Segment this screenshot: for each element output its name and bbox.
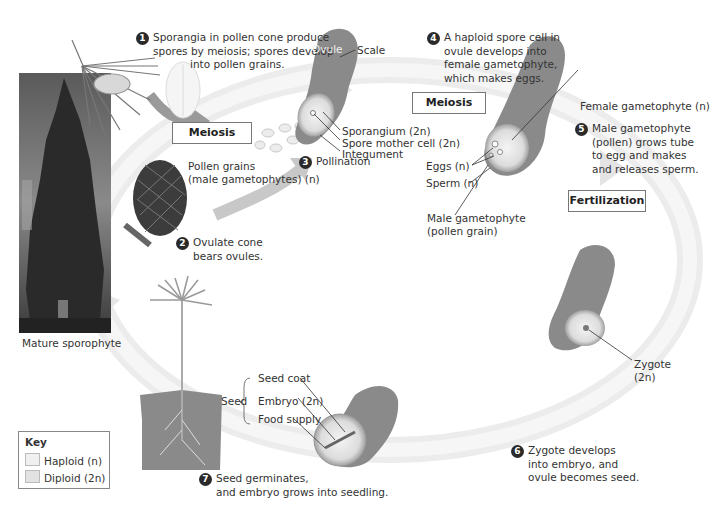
sperm-label: Sperm (n) [426,177,478,190]
food-supply-label: Food supply [258,413,321,426]
embryo-label: Embryo (2n) [258,395,323,408]
seed-label: Seed [221,395,247,408]
step-4: 4 A haploid spore cell in ovule develops… [427,31,560,85]
meiosis-box-ovule: Meiosis [412,92,486,114]
haploid-swatch [25,453,40,466]
male-gametophyte-label: Male gametophyte (pollen grain) [427,212,526,238]
step-1: 1 Sporangia in pollen cone produce spore… [136,31,334,72]
ovule-label: Ovule [312,43,343,56]
step-6: 6 Zygote develops into embryo, and ovule… [511,444,639,485]
female-gametophyte-label: Female gametophyte (n) [580,100,710,113]
mature-sporophyte-label: Mature sporophyte [22,337,121,350]
legend-key: Key Haploid (n) Diploid (2n) [18,431,110,489]
key-title: Key [25,436,47,448]
integument-label: Integument [342,148,403,161]
scale-label: Scale [357,44,385,57]
zygote-label: Zygote (2n) [634,358,671,384]
pollen-grains-label: Pollen grains (male gametophytes) (n) [188,160,320,186]
key-item-haploid: Haploid (n) [25,453,102,467]
step-1-number: 1 [136,32,149,45]
eggs-label: Eggs (n) [426,160,470,173]
step-2: 2 Ovulate cone bears ovules. [176,236,263,263]
meiosis-box-pollen: Meiosis [172,122,252,144]
step-7: 7 Seed germinates, and embryo grows into… [199,472,388,499]
seed-coat-label: Seed coat [258,372,310,385]
diploid-swatch [25,470,40,483]
ovule-zygote [549,245,615,350]
step-5: 5 Male gametophyte (pollen) grows tube t… [575,122,698,176]
fertilization-box: Fertilization [568,190,646,212]
key-item-diploid: Diploid (2n) [25,470,105,484]
